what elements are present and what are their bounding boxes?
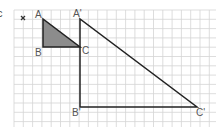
small-triangle-abc	[43, 19, 80, 47]
vertex-label-b: B	[35, 48, 42, 58]
vertex-label-c: C	[82, 46, 89, 56]
part-label: c	[0, 7, 3, 19]
vertex-label-a-prime: A'	[73, 9, 82, 19]
vertex-label-b-prime: B'	[72, 108, 81, 118]
vertex-label-c-prime: C'	[196, 108, 205, 118]
vertex-label-a: A	[35, 10, 42, 20]
enlargement-diagram: c A B C A' B' C'	[0, 0, 218, 130]
grid-figure	[0, 0, 218, 130]
